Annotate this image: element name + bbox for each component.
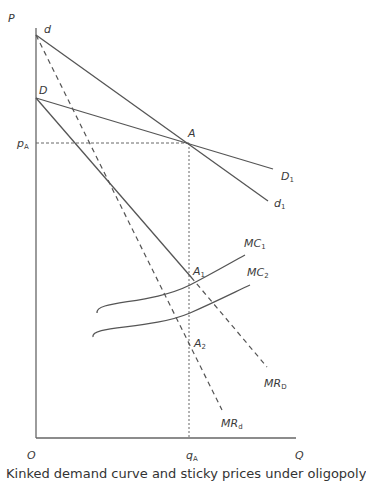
mr-d-dashed	[36, 35, 222, 410]
MC1-label: MC1	[244, 238, 266, 251]
mr-D-solid	[36, 98, 191, 277]
MRd-label: MRd	[221, 418, 243, 431]
point-D-label: D	[39, 85, 47, 96]
D1-label: D1	[281, 171, 294, 184]
MC2-label: MC2	[247, 267, 269, 280]
demand-curve-D	[36, 98, 273, 169]
qA-label: qA	[186, 450, 198, 463]
MRD-label: MRD	[264, 378, 287, 391]
mc1-curve	[97, 255, 245, 313]
pA-label: pA	[17, 138, 29, 151]
point-A2-label: A2	[194, 338, 206, 351]
demand-curve-d	[36, 35, 268, 201]
point-A1-label: A1	[193, 266, 205, 279]
point-d-label: d	[44, 24, 51, 35]
origin-label: O	[27, 450, 36, 461]
point-A-label: A	[188, 128, 196, 139]
y-axis-label: P	[8, 13, 15, 24]
figure-caption-clipped: Kinked demand curve and sticky prices un…	[6, 466, 366, 481]
x-axis-label: Q	[295, 450, 304, 461]
d1-label: d1	[274, 198, 285, 211]
mr-D-dashed	[191, 277, 267, 367]
